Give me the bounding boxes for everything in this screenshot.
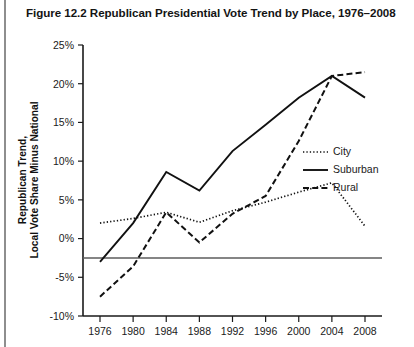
- y-axis-title-line1: Republican Trend,: [17, 136, 28, 224]
- y-tick-label: 5%: [59, 194, 74, 206]
- y-tick-label: -5%: [55, 271, 74, 283]
- x-tick-label: 2000: [287, 325, 311, 337]
- y-tick-label: 25%: [53, 39, 74, 51]
- y-tick-label: -10%: [49, 310, 74, 322]
- figure-container: Figure 12.2 Republican Presidential Vote…: [0, 0, 414, 347]
- x-tick-label: 2008: [353, 325, 377, 337]
- x-tick-label: 2004: [320, 325, 344, 337]
- chart-legend: CitySuburbanRural: [303, 145, 379, 193]
- x-tick-label: 1988: [188, 325, 212, 337]
- y-axis-title-line2: Local Vote Share Minus National: [29, 101, 40, 258]
- x-tick-label: 1984: [155, 325, 179, 337]
- x-axis-ticks: [100, 316, 365, 322]
- series-line-city: [100, 183, 365, 226]
- line-chart-svg: 25%20%15%10%5%0%-5%-10% 1976198019841988…: [0, 0, 414, 347]
- series-layer: [100, 72, 365, 297]
- y-tick-label: 20%: [53, 78, 74, 90]
- y-axis-title: Republican Trend, Local Vote Share Minus…: [17, 101, 40, 258]
- y-tick-label: 0%: [59, 232, 74, 244]
- legend-label-city: City: [333, 145, 352, 157]
- series-line-rural: [100, 72, 365, 297]
- y-tick-label: 15%: [53, 116, 74, 128]
- y-tick-label: 10%: [53, 155, 74, 167]
- x-tick-label: 1992: [221, 325, 245, 337]
- legend-label-rural: Rural: [333, 181, 358, 193]
- legend-label-suburban: Suburban: [333, 163, 379, 175]
- plot-area: 25%20%15%10%5%0%-5%-10% 1976198019841988…: [0, 0, 414, 347]
- x-tick-label: 1976: [88, 325, 112, 337]
- x-tick-label: 1996: [254, 325, 278, 337]
- x-tick-label: 1980: [121, 325, 145, 337]
- series-line-suburban: [100, 76, 365, 262]
- x-axis-tick-labels: 197619801984198819921996200020042008: [88, 325, 377, 337]
- y-axis-tick-labels: 25%20%15%10%5%0%-5%-10%: [49, 39, 74, 322]
